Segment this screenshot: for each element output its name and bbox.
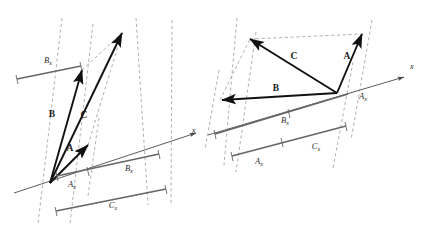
left-construct-a-parallel [88,33,122,145]
right-component-label-Ax-lower: Ax [254,156,263,167]
left-construct-b-to-c [82,33,122,70]
left-vector-label-B: B [49,109,56,119]
right-vector-C [250,39,337,93]
right-guide-a-tip [351,20,372,140]
left-vector-label-A: A [67,143,74,153]
left-guide-b-tip [70,24,93,224]
left-guide-a-tip [88,118,99,196]
right-component-label-Bx: Bx [281,115,289,126]
right-vector-label-C: C [291,51,298,61]
left-component-label-Bx-lower: Bx [125,163,133,174]
left-guide-right-end [171,20,172,206]
left-measure-bars [17,66,166,211]
right-vector-label-B: B [273,83,280,93]
right-tick-bx-mid [288,109,290,118]
right-construct-top [250,34,362,39]
right-guide-left-edge [205,70,219,150]
left-component-label-Bx-upper: Bx [44,55,52,66]
right-vector-A [337,34,362,93]
left-bar-Bx-Ax-lower [57,154,159,176]
left-guide-origin [38,18,62,224]
right-bar-Cx-Ax [232,126,346,156]
right-vector-B [222,93,337,100]
left-panel: x B C A [14,18,196,224]
right-measure-bars [215,94,348,156]
right-component-label-Cx: Cx [312,141,321,152]
left-x-axis [14,133,196,193]
left-component-label-Cx: Cx [109,200,118,211]
right-construct-b-to-c [220,39,250,100]
vector-components-figure: x B C A [0,0,429,237]
left-guide-c-tip [136,18,148,205]
right-x-axis-label: x [409,62,414,71]
right-vector-label-A: A [344,51,351,61]
right-component-label-Ax-upper: Ax [358,91,367,102]
right-panel: x A B C [205,18,414,172]
left-bar-Bx-upper [17,66,81,79]
figure-canvas: x B C A [0,0,429,237]
right-guide-c-tip [224,18,237,165]
left-vector-label-C: C [81,110,88,120]
left-dashed-guides [38,18,172,224]
left-x-axis-label: x [191,126,196,135]
